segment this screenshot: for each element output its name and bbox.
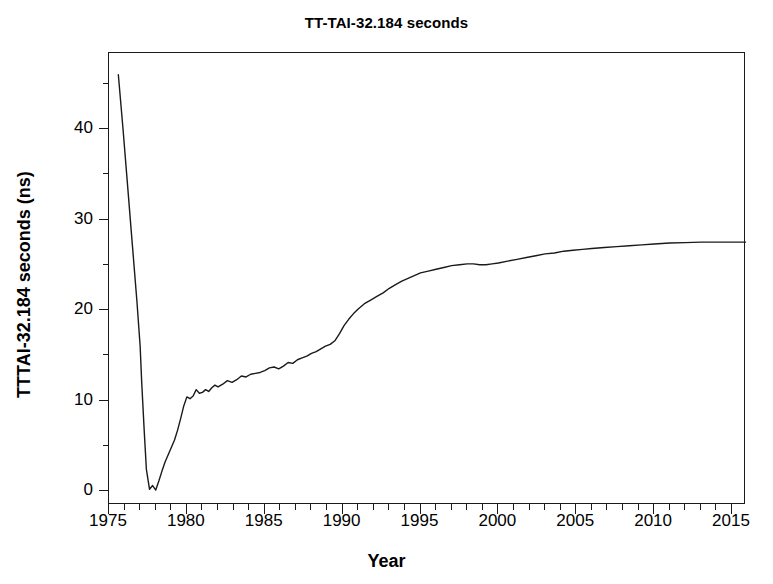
y-tick-mark [99, 128, 108, 129]
x-minor-tick [310, 504, 311, 510]
y-tick-mark [99, 400, 108, 401]
x-minor-tick [513, 504, 514, 510]
y-tick-label: 0 [47, 481, 93, 498]
x-tick-label: 1990 [307, 512, 377, 529]
y-tick-mark [99, 309, 108, 310]
x-minor-tick [466, 504, 467, 510]
x-tick-label: 2005 [540, 512, 610, 529]
x-tick-label: 2015 [696, 512, 766, 529]
x-minor-tick [217, 504, 218, 510]
x-minor-tick [155, 504, 156, 510]
x-minor-tick [404, 504, 405, 510]
x-tick-label: 1985 [229, 512, 299, 529]
y-tick-label: 40 [47, 119, 93, 136]
series-line-tt-tai [118, 75, 746, 490]
x-minor-tick [560, 504, 561, 510]
chart-page: TT-TAI-32.184 seconds 010203040 TTTAI-32… [0, 0, 773, 584]
chart-title: TT-TAI-32.184 seconds [0, 14, 773, 31]
y-tick-label: 10 [47, 391, 93, 408]
x-minor-tick [529, 504, 530, 510]
y-minor-tick [103, 173, 108, 174]
x-minor-tick [606, 504, 607, 510]
x-tick-label: 1975 [73, 512, 143, 529]
x-tick-label: 2000 [462, 512, 532, 529]
x-minor-tick [124, 504, 125, 510]
plot-area [108, 52, 745, 504]
y-minor-tick [103, 83, 108, 84]
x-minor-tick [669, 504, 670, 510]
x-minor-tick [326, 504, 327, 510]
x-minor-tick [279, 504, 280, 510]
x-minor-tick [248, 504, 249, 510]
y-axis-label: TTTAI-32.184 seconds (ns) [14, 95, 35, 475]
x-minor-tick [591, 504, 592, 510]
x-minor-tick [684, 504, 685, 510]
y-minor-tick [103, 445, 108, 446]
x-minor-tick [638, 504, 639, 510]
x-tick-label: 2010 [618, 512, 688, 529]
x-minor-tick [373, 504, 374, 510]
x-tick-label: 1980 [151, 512, 221, 529]
x-minor-tick [357, 504, 358, 510]
x-minor-tick [435, 504, 436, 510]
x-minor-tick [544, 504, 545, 510]
x-minor-tick [201, 504, 202, 510]
x-minor-tick [170, 504, 171, 510]
x-minor-tick [139, 504, 140, 510]
y-tick-mark [99, 219, 108, 220]
x-minor-tick [233, 504, 234, 510]
x-axis-label: Year [0, 551, 773, 572]
x-minor-tick [451, 504, 452, 510]
y-minor-tick [103, 354, 108, 355]
x-minor-tick [622, 504, 623, 510]
x-tick-label: 1995 [385, 512, 455, 529]
y-tick-label: 20 [47, 300, 93, 317]
y-tick-mark [99, 490, 108, 491]
x-minor-tick [388, 504, 389, 510]
y-tick-label: 30 [47, 210, 93, 227]
data-line-svg [109, 53, 746, 505]
x-minor-tick [715, 504, 716, 510]
x-minor-tick [482, 504, 483, 510]
x-minor-tick [700, 504, 701, 510]
y-minor-tick [103, 264, 108, 265]
x-minor-tick [295, 504, 296, 510]
